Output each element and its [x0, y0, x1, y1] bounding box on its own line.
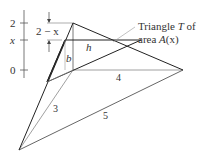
label-b: b [66, 52, 72, 64]
axis-label-x: x [9, 34, 15, 46]
label-4: 4 [116, 72, 121, 83]
axis-label-2: 2 [10, 17, 16, 29]
edge-3 [19, 70, 73, 150]
label-h: h [86, 41, 92, 53]
label-5: 5 [103, 110, 108, 121]
edge-5 [19, 70, 183, 150]
arrowhead-up-icon [47, 40, 51, 44]
pyramid-diagram: 2 x 0 2 − x h b 4 3 5 Triangle T of area… [0, 0, 212, 160]
axis-label-0: 0 [10, 64, 16, 76]
dimension-label: 2 − x [36, 25, 59, 37]
callout-line2: area A(x) [138, 33, 179, 46]
label-3: 3 [53, 103, 58, 114]
callout-line1: Triangle T of [138, 20, 196, 32]
arrowhead-down-icon [47, 19, 51, 23]
